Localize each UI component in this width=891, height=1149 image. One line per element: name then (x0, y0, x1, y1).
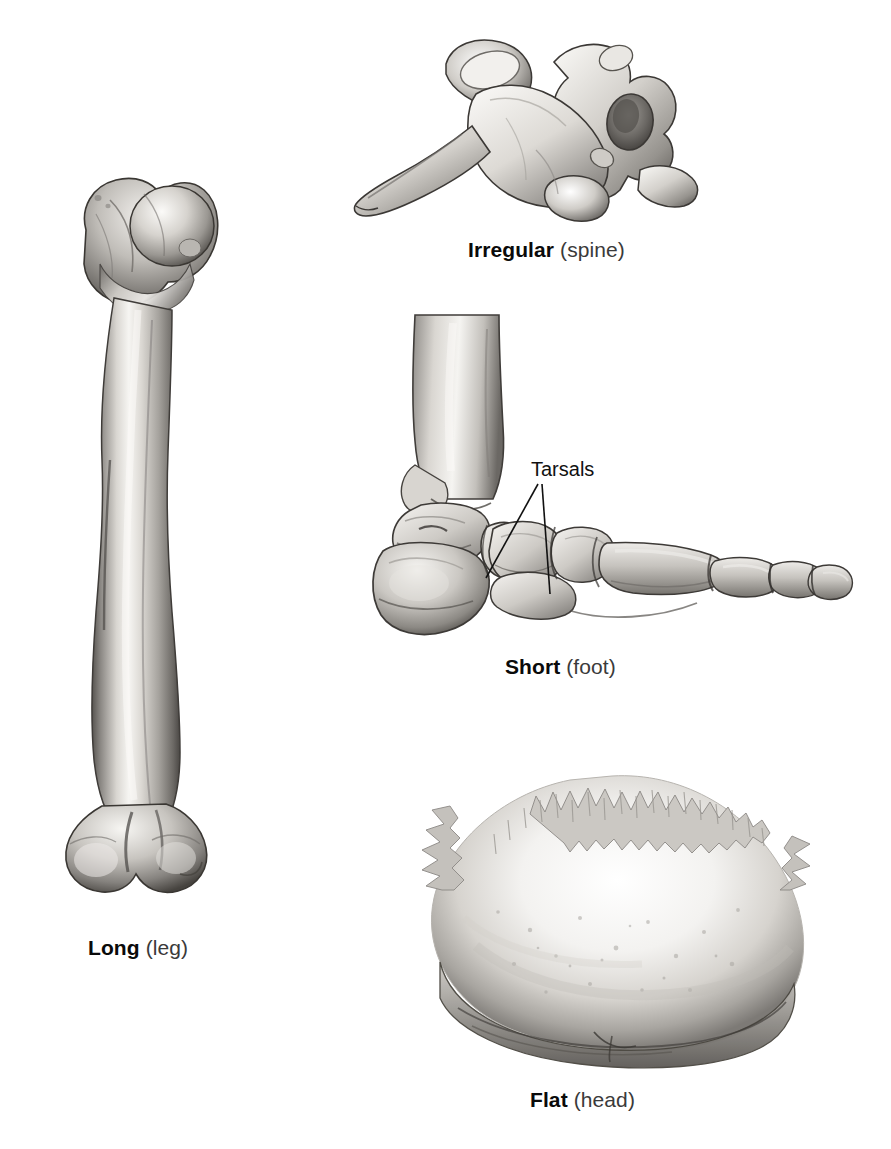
caption-long-region: (leg) (146, 936, 189, 959)
tarsals-leader-lines (430, 460, 630, 600)
vertebra-illustration (340, 30, 730, 240)
panel-long-bone: Long (leg) (0, 0, 300, 1000)
cranial-flat-bone-illustration (380, 750, 850, 1070)
caption-flat-bone: Flat (head) (530, 1088, 635, 1112)
caption-long-bone: Long (leg) (88, 936, 188, 960)
tarsals-label: Tarsals (531, 458, 594, 481)
femur-illustration (40, 160, 240, 900)
caption-flat-kind: Flat (530, 1088, 568, 1111)
caption-flat-region: (head) (574, 1088, 635, 1111)
caption-short-bone: Short (foot) (505, 655, 616, 679)
panel-flat-bone: Flat (head) (370, 740, 870, 1140)
caption-irregular-region: (spine) (560, 238, 625, 261)
caption-short-region: (foot) (566, 655, 616, 678)
caption-irregular-bone: Irregular (spine) (468, 238, 625, 262)
panel-short-bone: Tarsals Short (foot) (370, 310, 880, 690)
panel-irregular-bone: Irregular (spine) (330, 10, 730, 290)
caption-short-kind: Short (505, 655, 560, 678)
caption-long-kind: Long (88, 936, 140, 959)
caption-irregular-kind: Irregular (468, 238, 554, 261)
bone-classification-figure: Long (leg) (0, 0, 891, 1149)
